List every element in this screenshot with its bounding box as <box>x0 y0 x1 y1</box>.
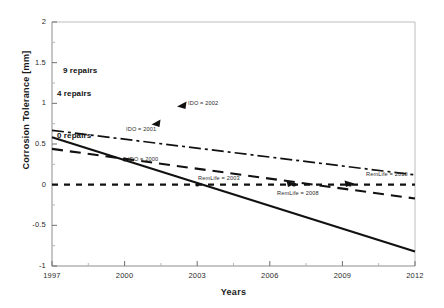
series-line-4-repairs <box>52 149 415 199</box>
annotation-remlife-2003: RemLife = 2003 <box>198 175 240 181</box>
annotation-ido-2000: IDO = 2000 <box>128 156 158 162</box>
x-axis-title: Years <box>52 287 415 297</box>
series-label-0-repairs: 0 repairs <box>57 131 91 140</box>
chart-plot-area <box>0 0 444 308</box>
x-tick-label-2003: 2003 <box>177 271 217 280</box>
annotation-arrows <box>152 102 355 188</box>
arrow-ido-2002 <box>177 102 187 110</box>
axis-frame <box>52 22 415 266</box>
series-line-0-repairs <box>52 137 415 251</box>
annotation-remlife-2010: RemLife = 2010 <box>366 171 408 177</box>
x-tick-label-2012: 2012 <box>395 271 435 280</box>
x-tick-label-2006: 2006 <box>250 271 290 280</box>
annotation-ido-2001: IDO = 2001 <box>126 126 156 132</box>
marker-remlife-2003 <box>195 183 199 187</box>
annotation-ido-2002: IDO = 2002 <box>188 100 218 106</box>
y-tick-label-minus-0-5: -0.5 <box>22 220 46 229</box>
y-axis-ticks <box>52 22 57 266</box>
annotation-remlife-2008: RemLife = 2008 <box>277 190 319 196</box>
series-line-9-repairs <box>52 130 415 175</box>
chart-figure: 2 1.5 1 0.5 0 -0.5 -1 1997 2000 2003 200… <box>0 0 444 308</box>
x-tick-label-2000: 2000 <box>105 271 145 280</box>
y-tick-label-minus-1: -1 <box>22 261 46 270</box>
series-label-9-repairs: 9 repairs <box>63 66 97 75</box>
marker-ido-2000 <box>123 158 127 162</box>
x-tick-label-2009: 2009 <box>322 271 362 280</box>
x-tick-label-1997: 1997 <box>32 271 72 280</box>
series-label-4-repairs: 4 repairs <box>57 89 91 98</box>
y-axis-title: Corrosion Tolerance [mm] <box>21 20 31 200</box>
